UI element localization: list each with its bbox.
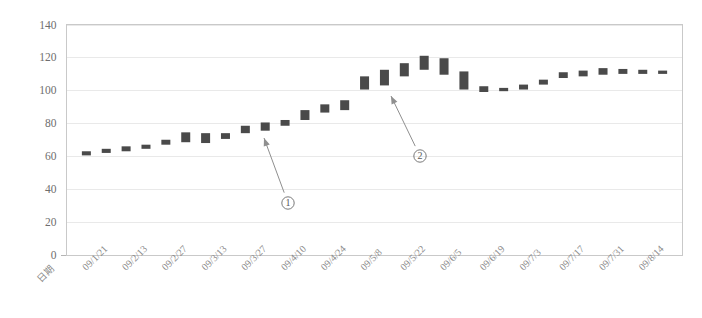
data-bar: [221, 133, 230, 139]
data-bar: [440, 58, 449, 74]
candlestick-range-chart: 020406080100120140 09/1/2109/2/1309/2/27…: [0, 0, 702, 318]
chart-container: 020406080100120140 09/1/2109/2/1309/2/27…: [0, 0, 702, 318]
data-bar: [539, 80, 548, 85]
y-tick-label-0: 0: [51, 249, 57, 261]
data-bar: [181, 132, 190, 142]
data-bar: [102, 149, 111, 153]
data-bar: [122, 146, 131, 151]
y-tick-label-20: 20: [45, 216, 57, 228]
data-bar: [479, 86, 488, 92]
y-tick-label-40: 40: [45, 183, 57, 195]
data-bar: [420, 56, 429, 70]
data-bar: [320, 104, 329, 112]
data-bar: [300, 110, 309, 120]
data-bar: [161, 140, 170, 145]
data-bar: [599, 68, 608, 75]
annotation-label: 1: [286, 197, 291, 208]
y-tick-label-100: 100: [39, 84, 57, 96]
data-bar: [201, 133, 210, 143]
y-tick-label-60: 60: [45, 150, 57, 162]
chart-background: [0, 0, 702, 318]
data-bar: [579, 71, 588, 77]
data-bar: [261, 122, 270, 130]
data-bar: [519, 85, 528, 90]
data-bar: [499, 88, 508, 91]
y-tick-label-80: 80: [45, 117, 57, 129]
data-bar: [380, 70, 389, 86]
y-tick-label-140: 140: [39, 19, 57, 31]
data-bar: [559, 72, 568, 78]
data-bar: [658, 71, 667, 74]
data-bar: [141, 145, 150, 149]
y-tick-label-120: 120: [39, 51, 57, 63]
data-bar: [400, 63, 409, 76]
data-bar: [638, 70, 647, 74]
data-bar: [82, 151, 91, 155]
data-bar: [281, 120, 290, 126]
data-bar: [618, 69, 627, 74]
data-bar: [459, 71, 468, 89]
annotation-label: 2: [418, 150, 423, 161]
data-bar: [340, 100, 349, 110]
data-bar: [360, 76, 369, 89]
data-bar: [241, 126, 250, 133]
